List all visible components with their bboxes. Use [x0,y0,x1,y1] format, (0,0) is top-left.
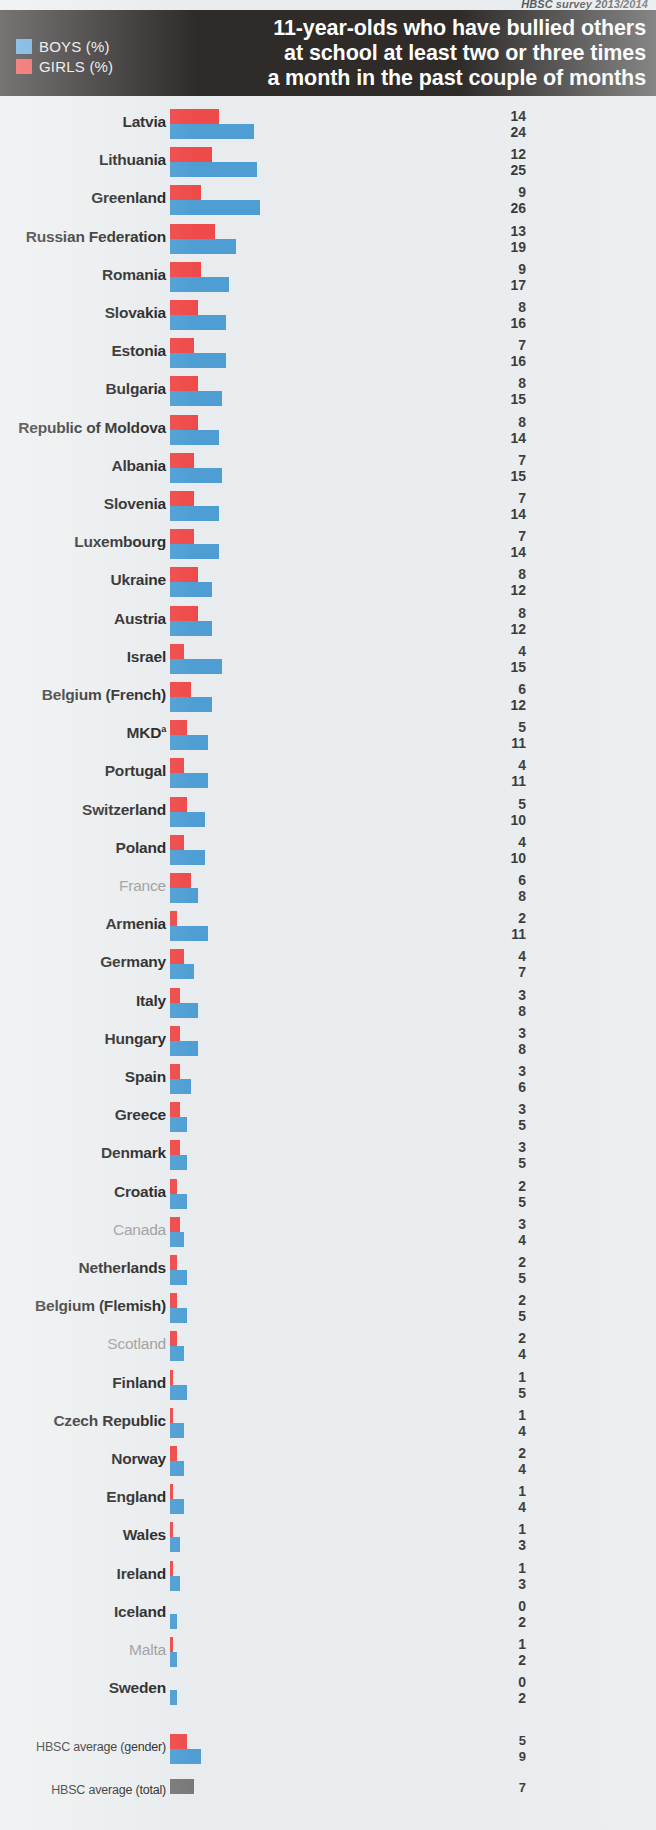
country-label: Hungary [0,1030,166,1048]
bar-boys [170,1041,198,1056]
row-values: 714 [470,528,526,560]
bar-boys [170,544,219,559]
bar-boys [170,1155,187,1170]
country-label: Norway [0,1450,166,1468]
bar-boys [170,964,194,979]
bar-group [170,415,490,447]
bar-group [170,1102,490,1134]
bar-girls [170,262,201,277]
bar-group-average-total [170,1775,490,1807]
country-label: Italy [0,992,166,1010]
value-girls: 2 [470,1330,526,1346]
bar-group [170,682,490,714]
value-girls: 1 [470,1560,526,1576]
value-girls: 7 [470,528,526,544]
bar-girls [170,1561,173,1576]
value-girls: 2 [470,1254,526,1270]
hbsc-average-total-row: HBSC average (total)7 [0,1766,656,1814]
row-values: 35 [470,1139,526,1171]
bar-group [170,491,490,523]
row-values: 13 [470,1521,526,1553]
bar-boys [170,697,212,712]
country-label: Wales [0,1526,166,1544]
row-values: 14 [470,1483,526,1515]
row-values: 12 [470,1636,526,1668]
bar-group [170,1179,490,1211]
row-values: 1319 [470,223,526,255]
bar-boys [170,277,229,292]
bar-group [170,1217,490,1249]
value-total-average: 7 [470,1780,526,1796]
bar-girls [170,1637,173,1652]
value-girls: 2 [470,1292,526,1308]
chart-title: 11-year-olds who have bullied others at … [156,16,646,91]
bar-girls [170,1370,173,1385]
row-values: 13 [470,1560,526,1592]
value-girls: 14 [470,108,526,124]
value-girls: 3 [470,1216,526,1232]
bar-boys [170,391,222,406]
bar-boys [170,812,205,827]
row-values: 15 [470,1369,526,1401]
bar-boys [170,1690,177,1705]
value-girls: 6 [470,872,526,888]
bar-group [170,1064,490,1096]
hbsc-average-total-label: HBSC average (total) [0,1783,166,1797]
bar-boys [170,1423,184,1438]
bar-girls [170,1255,177,1270]
row-values: 812 [470,605,526,637]
bar-girls [170,300,198,315]
bar-boys [170,162,257,177]
bar-group [170,911,490,943]
bar-group [170,338,490,370]
country-label: Poland [0,839,166,857]
legend-swatch-boys-icon [16,39,32,54]
hbsc-average-gender-label: HBSC average (gender) [0,1740,166,1754]
bar-group [170,1484,490,1516]
bar-group [170,1446,490,1478]
bar-group [170,1255,490,1287]
row-values: 35 [470,1101,526,1133]
bar-group [170,949,490,981]
bar-girls [170,376,198,391]
bar-group [170,262,490,294]
bar-girls [170,911,177,926]
value-girls: 3 [470,1063,526,1079]
bar-boys [170,124,254,139]
legend-swatch-girls-icon [16,59,32,74]
value-girls: 4 [470,757,526,773]
row-values: 814 [470,414,526,446]
bar-boys [170,621,212,636]
bar-boys-average [170,1749,201,1764]
value-boys: 2 [470,1690,526,1706]
country-label: Switzerland [0,801,166,819]
value-boys-average: 9 [470,1749,526,1765]
bar-girls [170,415,198,430]
bar-girls [170,644,184,659]
value-girls: 8 [470,299,526,315]
bar-group [170,1599,490,1631]
country-label: Denmark [0,1144,166,1162]
country-label: Albania [0,457,166,475]
bar-girls [170,1293,177,1308]
row-values: 14 [470,1407,526,1439]
bar-girls [170,797,187,812]
row-values: 815 [470,375,526,407]
bar-girls [170,1331,177,1346]
row-values: 25 [470,1292,526,1324]
value-girls: 9 [470,261,526,277]
country-label: Belgium (French) [0,686,166,704]
bar-boys [170,1614,177,1629]
country-label: Austria [0,610,166,628]
value-girls-average: 5 [470,1733,526,1749]
bar-group [170,873,490,905]
bar-girls [170,338,194,353]
legend-label-girls: GIRLS (%) [39,58,113,75]
value-girls: 6 [470,681,526,697]
chart-title-line-2: at school at least two or three times [156,41,646,66]
country-label: Russian Federation [0,228,166,246]
row-values: 411 [470,757,526,789]
value-girls: 5 [470,719,526,735]
bar-group [170,644,490,676]
country-label: France [0,877,166,895]
